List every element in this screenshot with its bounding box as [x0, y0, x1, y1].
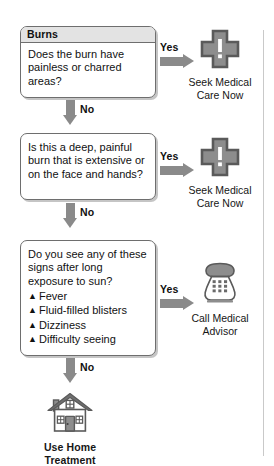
no-arrow-2 — [66, 203, 75, 227]
list-item: ▲Difficulty seeing — [28, 332, 148, 346]
no-arrow-1-shaft — [66, 100, 75, 116]
triangle-bullet-icon: ▲ — [28, 332, 39, 346]
no-label-2: No — [80, 206, 94, 218]
triangle-bullet-icon: ▲ — [28, 289, 39, 303]
question-box-3: Do you see any of these signs after long… — [20, 240, 156, 356]
outcome-seek-medical-care-now-1: Seek Medical Care Now — [177, 28, 263, 101]
sign-label: Difficulty seeing — [39, 333, 116, 345]
question-box-1-header: Burns — [21, 27, 155, 43]
outcome-1-caption-line2: Care Now — [197, 89, 244, 101]
yes-label-2: Yes — [160, 150, 178, 162]
sign-label: Fever — [39, 290, 67, 302]
question-box-2-body: Is this a deep, painful burn that is ext… — [21, 134, 155, 185]
question-box-1-text: Does the burn have painless or charred a… — [28, 48, 148, 88]
no-arrow-3-head — [63, 373, 77, 383]
yes-label-1: Yes — [160, 41, 178, 53]
outcome-3-caption: Call Medical Advisor — [177, 312, 263, 337]
question-box-3-body: Do you see any of these signs after long… — [21, 241, 155, 350]
medical-cross-alert-icon — [177, 136, 263, 182]
outcome-2-caption: Seek Medical Care Now — [177, 184, 263, 209]
question-box-2-text: Is this a deep, painful burn that is ext… — [28, 141, 148, 181]
question-box-3-text: Do you see any of these signs after long… — [28, 248, 148, 288]
sign-label: Dizziness — [39, 319, 86, 331]
outcome-3-caption-line2: Advisor — [202, 325, 237, 337]
no-arrow-1-head — [63, 115, 77, 125]
outcome-4-caption-line2: Treatment — [44, 454, 95, 466]
list-item: ▲Fluid-filled blisters — [28, 303, 148, 317]
question-box-3-sign-list: ▲Fever ▲Fluid-filled blisters ▲Dizziness… — [28, 289, 148, 346]
outcome-use-home-treatment: Use Home Treatment — [27, 391, 113, 466]
list-item: ▲Fever — [28, 289, 148, 303]
outcome-2-caption-line2: Care Now — [197, 197, 244, 209]
medical-cross-alert-icon — [177, 28, 263, 74]
outcome-2-caption-line1: Seek Medical — [188, 184, 251, 196]
no-arrow-2-shaft — [66, 203, 75, 219]
no-arrow-3-shaft — [66, 358, 75, 374]
telephone-icon — [177, 262, 263, 310]
no-arrow-2-head — [63, 218, 77, 228]
no-arrow-1 — [66, 100, 75, 124]
outcome-1-caption: Seek Medical Care Now — [177, 76, 263, 101]
yes-label-3: Yes — [160, 283, 178, 295]
question-box-2: Is this a deep, painful burn that is ext… — [20, 133, 156, 200]
outcome-1-caption-line1: Seek Medical — [188, 76, 251, 88]
outcome-4-caption-line1: Use Home — [44, 441, 96, 453]
outcome-4-caption: Use Home Treatment — [27, 441, 113, 466]
question-box-1-body: Does the burn have painless or charred a… — [21, 43, 155, 92]
outcome-call-medical-advisor: Call Medical Advisor — [177, 262, 263, 337]
no-label-1: No — [80, 103, 94, 115]
outcome-3-caption-line1: Call Medical — [191, 312, 248, 324]
triangle-bullet-icon: ▲ — [28, 318, 39, 332]
no-arrow-3 — [66, 358, 75, 382]
outcome-seek-medical-care-now-2: Seek Medical Care Now — [177, 136, 263, 209]
page-edge-rule — [263, 30, 264, 456]
triangle-bullet-icon: ▲ — [28, 303, 39, 317]
question-box-1: Burns Does the burn have painless or cha… — [20, 26, 156, 98]
house-icon — [27, 391, 113, 439]
no-label-3: No — [80, 361, 94, 373]
sign-label: Fluid-filled blisters — [39, 304, 127, 316]
list-item: ▲Dizziness — [28, 318, 148, 332]
